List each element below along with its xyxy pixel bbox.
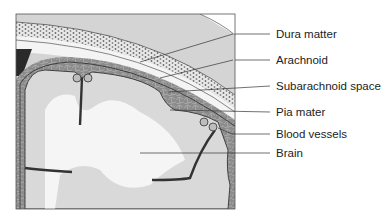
label-subarachnoid-space: Subarachnoid space: [276, 79, 381, 93]
label-dura-matter: Dura matter: [276, 27, 337, 41]
label-pia-mater: Pia mater: [276, 105, 325, 119]
label-arachnoid: Arachnoid: [276, 53, 328, 67]
blood-vessel: [84, 74, 92, 82]
blood-vessel: [73, 74, 81, 82]
blood-vessel: [209, 123, 217, 131]
label-blood-vessels: Blood vessels: [276, 127, 347, 141]
label-brain: Brain: [276, 146, 303, 160]
blood-vessel: [200, 118, 208, 126]
